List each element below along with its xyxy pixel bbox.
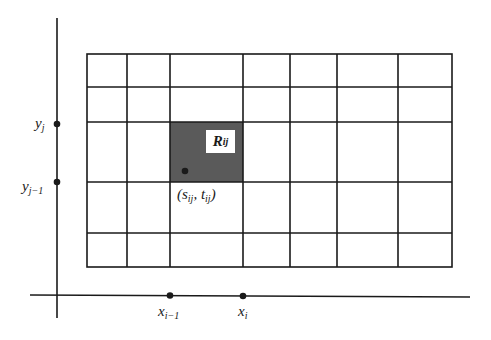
- x-i-label: xi: [238, 304, 247, 321]
- x-axis: [30, 295, 470, 297]
- label-base: y: [35, 115, 42, 131]
- diagram-canvas: [0, 0, 491, 340]
- y-j-point: [54, 121, 61, 128]
- x-i-minus-1-point: [167, 292, 174, 299]
- separator: ,: [193, 186, 201, 202]
- label-base: x: [158, 303, 165, 319]
- y-j-minus-1-label: yj−1: [22, 179, 43, 196]
- partition-diagram: Rij yj yj−1 xi−1 xi (sij, tij): [0, 0, 491, 340]
- label-base: x: [238, 303, 245, 319]
- label-subscript: i−1: [165, 310, 180, 321]
- y-j-label: yj: [35, 116, 44, 133]
- x-i-point: [240, 293, 247, 300]
- label-subscript: j−1: [29, 185, 44, 196]
- y-j-minus-1-point: [54, 179, 61, 186]
- label-subscript: i: [245, 310, 248, 321]
- subrectangle-label: Rij: [206, 130, 235, 153]
- paren-close: ): [211, 186, 216, 202]
- label-base: y: [22, 178, 29, 194]
- sample-point-dot: [182, 168, 189, 175]
- partition-grid: [87, 54, 452, 267]
- label-subscript: j: [42, 122, 45, 133]
- x-i-minus-1-label: xi−1: [158, 304, 179, 321]
- label-subscript: ij: [223, 136, 229, 147]
- label-base: R: [213, 133, 223, 150]
- axes: [30, 18, 470, 318]
- sample-point-label: (sij, tij): [177, 187, 216, 204]
